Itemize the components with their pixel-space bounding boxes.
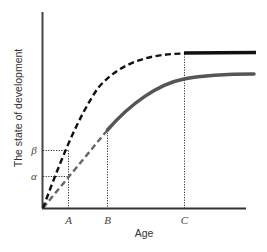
black-dashed-curve xyxy=(43,54,184,209)
x-axis-label: Age xyxy=(135,227,154,239)
x-tick-b: B xyxy=(104,214,111,226)
x-tick-a: A xyxy=(64,214,72,226)
gray-solid-curve xyxy=(108,74,255,130)
gray-dashed-segment xyxy=(43,130,108,208)
development-diagram: β α A B C Age The state of development xyxy=(0,0,267,252)
guide-lines xyxy=(43,54,185,208)
black-solid-plateau xyxy=(184,53,256,54)
alpha-label: α xyxy=(31,170,37,182)
beta-label: β xyxy=(30,144,37,156)
x-tick-c: C xyxy=(181,214,189,226)
y-axis-label: The state of development xyxy=(12,49,24,168)
